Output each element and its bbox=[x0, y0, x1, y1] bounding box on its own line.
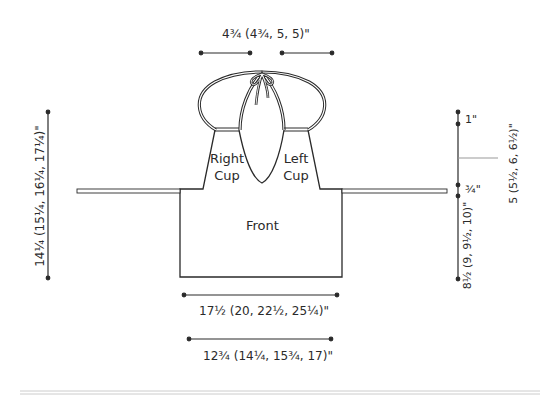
left-cup-line1: Left bbox=[276, 150, 316, 167]
right-cup-label: Right Cup bbox=[205, 150, 249, 184]
left-cup-line2: Cup bbox=[276, 167, 316, 184]
front-label: Front bbox=[246, 219, 279, 232]
front-bottom-width-label: 12¾ (14¼, 15¾, 17)" bbox=[203, 350, 333, 362]
left-cup-label: Left Cup bbox=[276, 150, 316, 184]
cup-height-label: 5 (5½, 6, 6½)" bbox=[508, 114, 519, 214]
band-label: ¾" bbox=[465, 184, 481, 195]
right-cup-line1: Right bbox=[205, 150, 249, 167]
right-cup-line2: Cup bbox=[205, 167, 249, 184]
right-height-dimension bbox=[456, 110, 460, 281]
front-width-dimension bbox=[182, 293, 339, 297]
halter-top-schematic bbox=[0, 0, 559, 397]
cup-top-label: 1" bbox=[465, 114, 477, 125]
front-bottom-width-dimension bbox=[187, 337, 333, 341]
strap-width-label: 4¾ (4¾, 5, 5)" bbox=[222, 28, 310, 40]
front-width-label: 17½ (20, 22½, 25¼)" bbox=[199, 305, 329, 317]
total-height-label: 14¼ (15¼, 16¼, 17¼)" bbox=[34, 116, 46, 276]
footer-rules bbox=[20, 391, 540, 394]
side-ties bbox=[77, 189, 447, 193]
neck-bow bbox=[251, 74, 273, 105]
body-height-label: 8½ (9, 9½, 10)" bbox=[462, 196, 473, 296]
strap-tops bbox=[215, 128, 308, 131]
strap-width-dimension bbox=[199, 51, 334, 55]
